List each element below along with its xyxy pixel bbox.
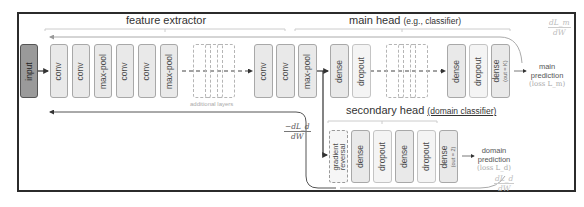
dense-output-layer: dense(out = K) [491, 44, 510, 98]
conv-layer: conv [276, 44, 295, 98]
dropout-layer: dropout [469, 44, 488, 98]
input-layer: input [20, 44, 38, 98]
additional-layer-placeholder [410, 44, 428, 98]
main-prediction-label: main prediction (loss L_m) [529, 62, 565, 89]
conv-layer: conv [72, 44, 90, 98]
max-pool-layer: max-pool [160, 44, 178, 98]
domain-gradient-label: dL_ddW [494, 174, 514, 193]
dropout-layer: dropout [417, 130, 436, 183]
conv-layer: conv [254, 44, 273, 98]
dense-layer: dense [330, 44, 349, 98]
dense-output-layer: dense(out = 2) [439, 130, 458, 183]
reversed-gradient-label: −dL_ddW [284, 122, 311, 141]
conv-layer: conv [138, 44, 156, 98]
max-pool-layer: max-pool [94, 44, 112, 98]
dense-layer: dense [351, 130, 370, 183]
additional-layer-placeholder [217, 44, 235, 98]
dropout-layer: dropout [373, 130, 392, 183]
gradient-reversal-layer: gradient reversal [329, 130, 348, 183]
conv-layer: conv [116, 44, 134, 98]
domain-prediction-label: domain prediction (loss L_d) [477, 146, 511, 173]
main-gradient-label: dL_mdW [548, 18, 571, 37]
dense-layer: dense [447, 44, 466, 98]
dropout-layer: dropout [352, 44, 371, 98]
dense-layer: dense [395, 130, 414, 183]
conv-layer: conv [50, 44, 68, 98]
max-pool-layer: max-pool [298, 44, 317, 98]
domain-adaptation-diagram: feature extractor main head (e.g., class… [0, 0, 584, 207]
additional-layers-caption: additional layers [190, 101, 233, 107]
